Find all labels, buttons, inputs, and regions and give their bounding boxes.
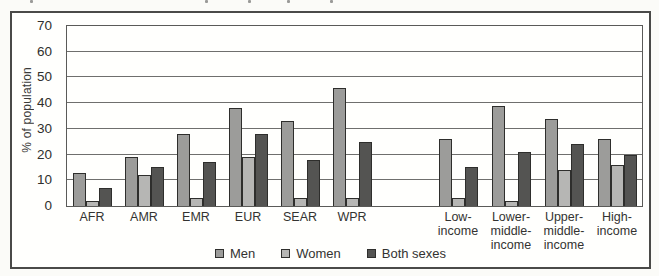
caption-text-fragment <box>30 0 33 3</box>
bar-men-upper-middle-income <box>545 119 558 206</box>
figure-frame: % of population 010203040506070 AFRAMREM… <box>10 11 651 269</box>
legend-item-women: Women <box>281 246 341 261</box>
bar-both-sexes-emr <box>203 162 216 206</box>
y-axis-ticks: 010203040506070 <box>12 13 59 213</box>
legend-swatch-icon <box>281 249 290 258</box>
caption-text-fragment <box>248 0 251 3</box>
plot-area <box>66 25 643 207</box>
y-tick-label-30: 30 <box>12 121 59 137</box>
y-tick-label-20: 20 <box>12 147 59 163</box>
bar-women-low-income <box>452 198 465 206</box>
bar-women-afr <box>86 201 99 206</box>
bar-both-sexes-high-income <box>624 155 637 206</box>
cropped-caption-remnant <box>0 0 659 4</box>
legend-swatch-icon <box>215 249 224 258</box>
bar-men-sear <box>281 121 294 206</box>
bar-women-emr <box>190 198 203 206</box>
bar-both-sexes-eur <box>255 134 268 206</box>
bar-both-sexes-upper-middle-income <box>571 144 584 206</box>
gridline-40 <box>67 102 642 103</box>
bar-men-afr <box>73 173 86 206</box>
x-axis-label-wpr: WPR <box>320 210 384 224</box>
bar-both-sexes-amr <box>151 167 164 206</box>
bar-women-lower-middle-income <box>505 201 518 206</box>
gridline-60 <box>67 51 642 52</box>
bar-both-sexes-lower-middle-income <box>518 152 531 206</box>
bar-men-wpr <box>333 88 346 206</box>
y-tick-label-0: 0 <box>12 198 59 214</box>
x-axis-label-high-income: High- income <box>585 210 649 238</box>
y-tick-label-70: 70 <box>12 18 59 34</box>
legend-label: Men <box>230 246 255 261</box>
gridline-50 <box>67 76 642 77</box>
bar-both-sexes-afr <box>99 188 112 206</box>
y-tick-label-60: 60 <box>12 44 59 60</box>
bar-both-sexes-wpr <box>359 142 372 206</box>
legend: MenWomenBoth sexes <box>12 244 649 262</box>
bar-both-sexes-low-income <box>465 167 478 206</box>
scanned-page: % of population 010203040506070 AFRAMREM… <box>0 0 659 276</box>
caption-text-fragment <box>287 0 290 3</box>
legend-item-both-sexes: Both sexes <box>367 246 446 261</box>
caption-text-fragment <box>205 0 208 3</box>
caption-text-fragment <box>330 0 333 3</box>
bar-men-emr <box>177 134 190 206</box>
legend-item-men: Men <box>215 246 255 261</box>
bar-women-wpr <box>346 198 359 206</box>
bar-women-amr <box>138 175 151 206</box>
bar-women-sear <box>294 198 307 206</box>
bar-men-low-income <box>439 139 452 206</box>
y-tick-label-50: 50 <box>12 69 59 85</box>
y-tick-label-10: 10 <box>12 172 59 188</box>
bar-men-eur <box>229 108 242 206</box>
legend-swatch-icon <box>367 249 376 258</box>
legend-label: Women <box>296 246 341 261</box>
legend-label: Both sexes <box>382 246 446 261</box>
bar-men-lower-middle-income <box>492 106 505 206</box>
y-tick-label-40: 40 <box>12 95 59 111</box>
bar-both-sexes-sear <box>307 160 320 206</box>
bar-men-high-income <box>598 139 611 206</box>
bar-women-high-income <box>611 165 624 206</box>
bar-men-amr <box>125 157 138 206</box>
bar-women-eur <box>242 157 255 206</box>
bar-women-upper-middle-income <box>558 170 571 206</box>
